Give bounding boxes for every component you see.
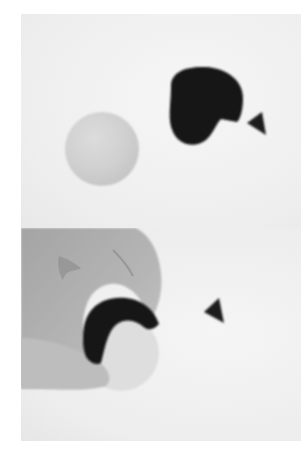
clay-ball — [65, 112, 139, 186]
top-scene — [21, 14, 301, 228]
bottom-scene — [21, 228, 301, 441]
clay-cone — [247, 112, 266, 135]
photo-panel-top — [21, 14, 301, 228]
clay-cone — [204, 298, 224, 323]
dark-clay-shape — [170, 67, 243, 145]
photo-panel-bottom — [21, 228, 301, 441]
